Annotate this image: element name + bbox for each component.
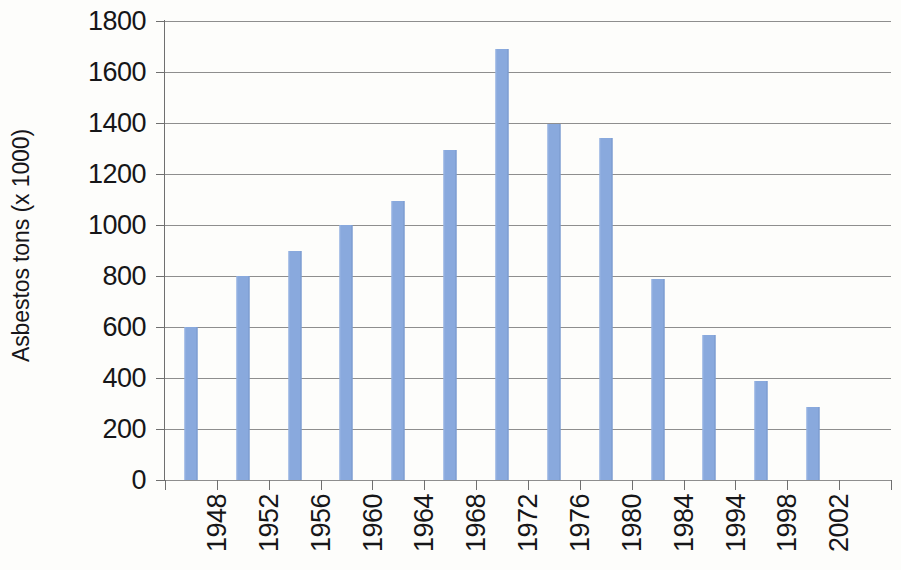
y-axis-tick-labels: 020040060080010001200140016001800: [44, 0, 156, 490]
bar: [703, 335, 716, 480]
bar-slot: [372, 21, 424, 480]
x-axis-tick-mark: [839, 480, 840, 490]
bar-slot: [165, 21, 217, 480]
x-axis-tick-label: 1960: [360, 494, 387, 552]
y-axis-title: Asbestos tons (x 1000): [0, 0, 44, 490]
x-axis-tick-label: 1980: [619, 494, 646, 552]
bar: [392, 201, 405, 480]
x-axis-tick-label: 1994: [723, 494, 750, 552]
x-axis-tick-mark: [321, 480, 322, 490]
bar: [807, 407, 820, 480]
x-axis-tick-label: 1984: [671, 494, 698, 552]
bar-slot: [684, 21, 736, 480]
bar: [547, 124, 560, 480]
x-axis-tick-mark: [580, 480, 581, 490]
bar-slot: [580, 21, 632, 480]
bar: [444, 150, 457, 480]
asbestos-tons-bar-chart: Asbestos tons (x 1000) 02004006008001000…: [0, 0, 901, 570]
y-axis-tick-mark: [156, 480, 165, 481]
bar: [651, 279, 664, 480]
x-axis-tick-label: 1964: [411, 494, 438, 552]
bar-slot: [735, 21, 787, 480]
plot-area: [165, 21, 891, 480]
y-axis-tick-mark: [156, 225, 165, 226]
x-axis-tick-mark: [269, 480, 270, 490]
x-axis-tick-mark: [372, 480, 373, 490]
bar-slot: [321, 21, 373, 480]
bar: [184, 327, 197, 480]
y-axis-tick-mark: [156, 123, 165, 124]
bar: [599, 138, 612, 480]
x-axis-tick-label: 1952: [256, 494, 283, 552]
y-axis-tick-mark: [156, 378, 165, 379]
y-axis-title-text: Asbestos tons (x 1000): [9, 128, 36, 361]
bar: [496, 49, 509, 480]
x-axis-tick-mark: [424, 480, 425, 490]
y-axis-tick-mark: [156, 72, 165, 73]
y-axis-tick-mark: [156, 429, 165, 430]
x-axis-tick-label: 1968: [463, 494, 490, 552]
bar: [755, 381, 768, 480]
bar-slot: [424, 21, 476, 480]
y-axis-tick-label: 600: [102, 314, 146, 341]
x-axis-tick-mark: [528, 480, 529, 490]
x-axis-tick-mark: [684, 480, 685, 490]
x-axis-tick-mark: [735, 480, 736, 490]
bar-slot: [476, 21, 528, 480]
x-axis-tick-label: 1956: [308, 494, 335, 552]
x-axis-tick-mark: [217, 480, 218, 490]
y-axis-tick-label: 1200: [88, 161, 146, 188]
bars: [165, 21, 891, 480]
bar-slot: [217, 21, 269, 480]
y-axis-tick-label: 0: [131, 467, 146, 494]
y-axis-tick-label: 200: [102, 416, 146, 443]
bar: [236, 276, 249, 480]
x-axis-tick-label: 1998: [774, 494, 801, 552]
y-axis-tick-label: 1400: [88, 110, 146, 137]
x-axis-tick-label: 1948: [204, 494, 231, 552]
y-axis-tick-label: 1000: [88, 212, 146, 239]
bar-slot: [632, 21, 684, 480]
y-axis-tick-label: 1800: [88, 8, 146, 35]
y-axis-tick-mark: [156, 327, 165, 328]
x-axis-tick-mark: [165, 480, 166, 490]
x-axis-tick-mark: [476, 480, 477, 490]
x-axis-tick-label: 1976: [567, 494, 594, 552]
bar: [288, 251, 301, 481]
y-axis-tick-label: 1600: [88, 59, 146, 86]
x-axis: 1948195219561960196419681972197619801984…: [165, 480, 891, 570]
x-axis-tick-label: 1972: [515, 494, 542, 552]
x-axis-tick-mark: [891, 480, 892, 490]
y-axis-tick-label: 400: [102, 365, 146, 392]
y-axis-tick-mark: [156, 276, 165, 277]
x-axis-tick-label: 2002: [826, 494, 853, 552]
bar-slot: [787, 21, 839, 480]
bar-slot: [269, 21, 321, 480]
bar: [340, 225, 353, 480]
y-axis-tick-label: 800: [102, 263, 146, 290]
bar-slot: [528, 21, 580, 480]
y-axis-tick-mark: [156, 174, 165, 175]
x-axis-tick-mark: [787, 480, 788, 490]
x-axis-tick-mark: [632, 480, 633, 490]
y-axis-tick-mark: [156, 21, 165, 22]
